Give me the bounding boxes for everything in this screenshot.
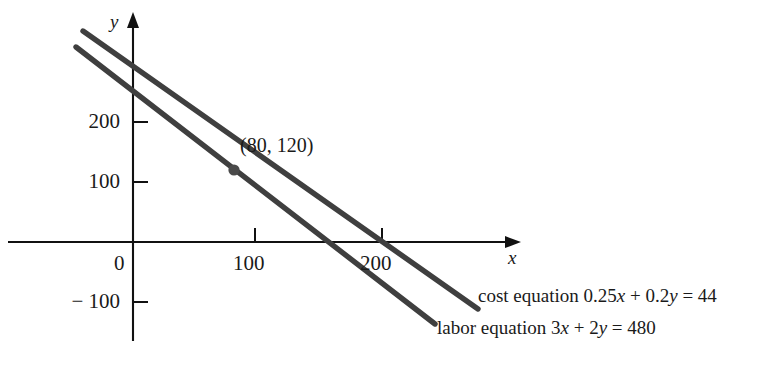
- x-tick-label-100: 100: [233, 253, 265, 274]
- cost-equation-label: cost equation 0.25x + 0.2y = 44: [478, 286, 717, 305]
- labor-equation-label: labor equation 3x + 2y = 480: [437, 318, 656, 337]
- labor-equation-coef-y: 2: [589, 317, 599, 338]
- intersection-point-label: (80, 120): [240, 135, 313, 155]
- labor-equation-prefix: labor equation: [437, 317, 551, 338]
- series-line-cost: [83, 31, 478, 309]
- x-axis-label: x: [508, 248, 516, 267]
- labor-equation-rhs: = 480: [607, 317, 656, 338]
- cost-equation-rhs: = 44: [678, 285, 717, 306]
- cost-equation-coef-y: 0.2: [645, 285, 669, 306]
- y-tick-label-200: 200: [48, 111, 120, 132]
- cost-equation-var-x: x: [617, 285, 625, 306]
- y-tick-label-neg-100: − 100: [40, 291, 120, 312]
- y-tick-label-100: 100: [48, 171, 120, 192]
- series-line-labor: [76, 47, 435, 324]
- y-axis-arrowhead: [127, 12, 139, 28]
- y-axis-label: y: [110, 12, 118, 31]
- intersection-point-marker: [228, 164, 239, 175]
- cost-equation-var-y: y: [669, 285, 677, 306]
- labor-equation-plus: +: [569, 317, 589, 338]
- labor-equation-var-x: x: [560, 317, 568, 338]
- labor-equation-var-y: y: [599, 317, 607, 338]
- chart-figure: y x 200 100 − 100 0 100 200 (80, 120) co…: [0, 0, 778, 366]
- cost-equation-prefix: cost equation: [478, 285, 584, 306]
- cost-equation-plus: +: [625, 285, 645, 306]
- origin-tick-label: 0: [114, 253, 125, 274]
- x-tick-label-200: 200: [360, 253, 392, 274]
- cost-equation-coef-x: 0.25: [584, 285, 617, 306]
